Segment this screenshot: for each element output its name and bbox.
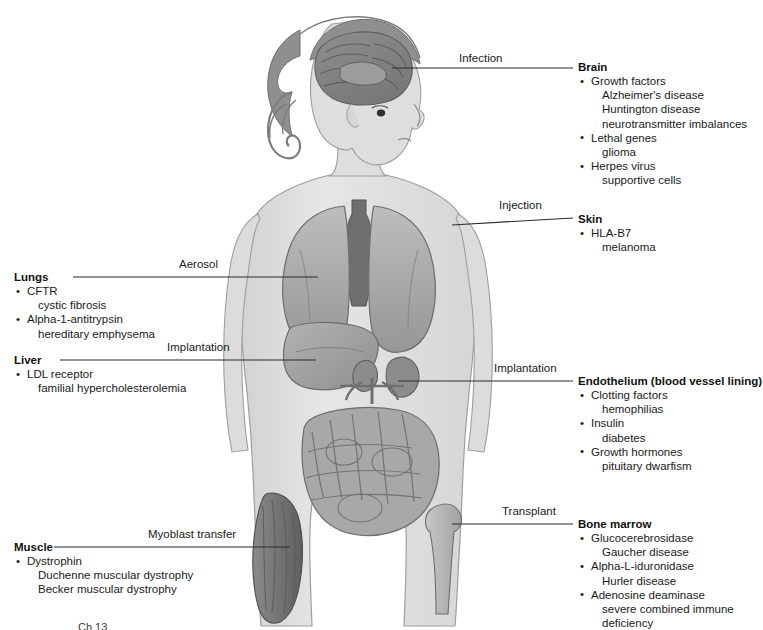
gene-entry: LDL receptor <box>14 367 186 381</box>
disease-entry: neurotransmitter imbalances <box>578 117 747 131</box>
method-label-implantation-endothelium: Implantation <box>494 362 557 375</box>
callout-muscle-title: Muscle <box>14 540 193 554</box>
callout-brain-list: Growth factors Alzheimer's disease Hunti… <box>578 74 747 188</box>
disease-entry: hereditary emphysema <box>14 327 155 341</box>
gene-therapy-target-tissues-diagram: Infection Injection Aerosol Implantation… <box>0 0 763 630</box>
disease-entry: Duchenne muscular dystrophy <box>14 568 193 582</box>
disease-entry: melanoma <box>578 240 656 254</box>
disease-entry: severe combined immune <box>578 602 734 616</box>
disease-entry: Huntington disease <box>578 102 747 116</box>
callout-muscle-list: Dystrophin Duchenne muscular dystrophy B… <box>14 554 193 597</box>
callout-endothelium-list: Clotting factors hemophilias Insulin dia… <box>578 388 762 473</box>
callout-skin: Skin HLA-B7 melanoma <box>578 212 656 254</box>
disease-entry: hemophilias <box>578 402 762 416</box>
callout-skin-list: HLA-B7 melanoma <box>578 226 656 254</box>
disease-entry: Gaucher disease <box>578 545 734 559</box>
figure-caption: Ch 13 <box>78 621 107 630</box>
callout-endothelium-title: Endothelium (blood vessel lining) <box>578 374 762 388</box>
disease-entry: familial hypercholesterolemia <box>14 381 186 395</box>
gene-entry: Adenosine deaminase <box>578 588 734 602</box>
gene-entry: Alpha-L-iduronidase <box>578 559 734 573</box>
gene-entry: Lethal genes <box>578 131 747 145</box>
method-label-transplant: Transplant <box>502 505 556 518</box>
disease-entry: deficiency <box>578 616 734 630</box>
disease-entry: Becker muscular dystrophy <box>14 582 193 596</box>
callout-muscle: Muscle Dystrophin Duchenne muscular dyst… <box>14 540 193 597</box>
head <box>268 17 424 165</box>
disease-entry: Alzheimer's disease <box>578 88 747 102</box>
gene-entry: CFTR <box>14 284 155 298</box>
gene-entry: Herpes virus <box>578 159 747 173</box>
callout-liver: Liver LDL receptor familial hypercholest… <box>14 353 186 395</box>
callout-brain-title: Brain <box>578 60 747 74</box>
callout-endothelium: Endothelium (blood vessel lining) Clotti… <box>578 374 762 473</box>
callout-lungs-title: Lungs <box>14 270 155 284</box>
callout-liver-list: LDL receptor familial hypercholesterolem… <box>14 367 186 395</box>
callout-bone-marrow-list: Glucocerebrosidase Gaucher disease Alpha… <box>578 531 734 630</box>
disease-entry: glioma <box>578 145 747 159</box>
gene-entry: HLA-B7 <box>578 226 656 240</box>
gene-entry: Growth hormones <box>578 445 762 459</box>
gene-entry: Clotting factors <box>578 388 762 402</box>
gene-entry: Insulin <box>578 416 762 430</box>
gene-entry: Dystrophin <box>14 554 193 568</box>
callout-bone-marrow: Bone marrow Glucocerebrosidase Gaucher d… <box>578 517 734 630</box>
gene-entry: Glucocerebrosidase <box>578 531 734 545</box>
method-label-injection: Injection <box>499 199 542 212</box>
disease-entry: supportive cells <box>578 173 747 187</box>
callout-lungs-list: CFTR cystic fibrosis Alpha-1-antitrypsin… <box>14 284 155 341</box>
gene-entry: Growth factors <box>578 74 747 88</box>
callout-skin-title: Skin <box>578 212 656 226</box>
disease-entry: diabetes <box>578 431 762 445</box>
callout-liver-title: Liver <box>14 353 186 367</box>
disease-entry: Hurler disease <box>578 574 734 588</box>
callout-brain: Brain Growth factors Alzheimer's disease… <box>578 60 747 188</box>
callout-bone-marrow-title: Bone marrow <box>578 517 734 531</box>
leader-line-skin <box>452 218 573 225</box>
gene-entry: Alpha-1-antitrypsin <box>14 312 155 326</box>
method-label-aerosol: Aerosol <box>179 258 218 271</box>
callout-lungs: Lungs CFTR cystic fibrosis Alpha-1-antit… <box>14 270 155 341</box>
disease-entry: pituitary dwarfism <box>578 459 762 473</box>
method-label-infection: Infection <box>459 52 502 65</box>
disease-entry: cystic fibrosis <box>14 298 155 312</box>
